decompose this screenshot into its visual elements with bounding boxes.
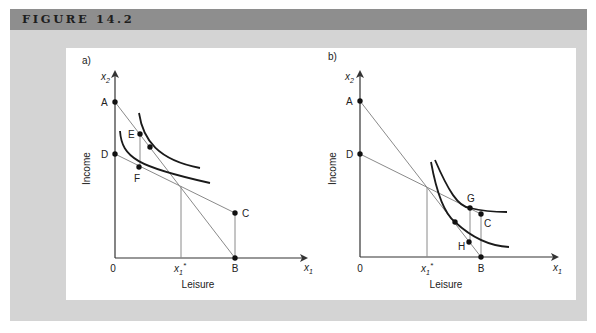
panel-a-xlabel: Leisure bbox=[182, 279, 215, 290]
panel-a-point-B bbox=[232, 255, 237, 260]
panel-b-point-D bbox=[357, 151, 362, 156]
panel-a-xstar: x1* bbox=[173, 261, 187, 276]
panel-b: b) x2 x1 Income Leisure 0 x1* B A D G C … bbox=[327, 51, 562, 290]
chart-svg: a) x2 x1 Income Leisure 0 x1* B A D E F … bbox=[0, 0, 596, 333]
panel-b-point-B bbox=[478, 254, 483, 259]
panel-b-point-H bbox=[466, 239, 471, 244]
panel-b-label: b) bbox=[328, 51, 337, 62]
panel-a-y-symbol: x2 bbox=[100, 71, 110, 84]
panel-a-label: a) bbox=[82, 55, 91, 66]
panel-a-A-label: A bbox=[101, 97, 108, 108]
panel-a: a) x2 x1 Income Leisure 0 x1* B A D E F … bbox=[81, 55, 313, 290]
panel-b-point-tangent bbox=[452, 219, 457, 224]
panel-a-budget-AB bbox=[115, 102, 235, 258]
panel-b-point-C bbox=[478, 211, 483, 216]
panel-a-point-tangent bbox=[147, 144, 152, 149]
panel-b-A-label: A bbox=[346, 96, 353, 107]
panel-b-H-label: H bbox=[458, 241, 465, 252]
panel-b-C-label: C bbox=[484, 218, 491, 229]
panel-a-ylabel: Income bbox=[81, 152, 92, 185]
panel-b-ylabel: Income bbox=[327, 152, 338, 185]
panel-a-C-label: C bbox=[242, 208, 249, 219]
panel-b-x-symbol: x1 bbox=[552, 262, 562, 275]
panel-b-D-label: D bbox=[346, 149, 353, 160]
panel-a-D-label: D bbox=[101, 149, 108, 160]
panel-a-B-label: B bbox=[232, 263, 239, 274]
panel-b-origin: 0 bbox=[357, 263, 363, 274]
panel-b-point-G bbox=[467, 205, 472, 210]
panel-a-E-label: E bbox=[128, 129, 135, 140]
panel-b-B-label: B bbox=[478, 263, 485, 274]
panel-b-higher-ic bbox=[435, 160, 507, 212]
panel-a-point-E bbox=[137, 131, 142, 136]
panel-a-x-symbol: x1 bbox=[303, 262, 313, 275]
panel-a-origin: 0 bbox=[110, 263, 116, 274]
panel-a-point-C bbox=[232, 210, 237, 215]
panel-b-point-A bbox=[357, 98, 362, 103]
panel-a-budget-DC bbox=[115, 154, 235, 213]
panel-a-point-F bbox=[136, 164, 141, 169]
panel-b-G-label: G bbox=[467, 193, 475, 204]
panel-a-point-A bbox=[112, 99, 117, 104]
panel-a-point-D bbox=[112, 151, 117, 156]
panel-b-budget-AB bbox=[360, 101, 481, 257]
panel-b-y-symbol: x2 bbox=[344, 71, 354, 84]
panel-a-higher-ic bbox=[139, 113, 200, 168]
panel-b-xlabel: Leisure bbox=[430, 279, 463, 290]
panel-b-xstar: x1* bbox=[420, 261, 434, 276]
panel-a-F-label: F bbox=[134, 173, 140, 184]
